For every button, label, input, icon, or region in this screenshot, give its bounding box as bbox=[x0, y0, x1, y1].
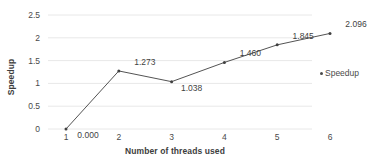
x-axis-title: Number of threads used bbox=[85, 146, 265, 156]
speedup-line-chart: Speedup Number of threads used 00.511.52… bbox=[0, 0, 370, 166]
y-tick-label: 2.5 bbox=[14, 10, 40, 20]
data-point-marker bbox=[223, 61, 226, 64]
data-point-marker bbox=[329, 32, 332, 35]
data-label: 2.096 bbox=[336, 19, 370, 29]
x-tick-label: 2 bbox=[109, 132, 129, 142]
x-tick-label: 4 bbox=[214, 132, 234, 142]
x-tick-label: 3 bbox=[162, 132, 182, 142]
legend-label-speedup: Speedup bbox=[325, 68, 359, 78]
x-tick-label: 5 bbox=[267, 132, 287, 142]
y-tick-label: 0.5 bbox=[14, 101, 40, 111]
y-tick-label: 2 bbox=[14, 33, 40, 43]
x-tick-label: 6 bbox=[320, 132, 340, 142]
data-label: 0.000 bbox=[68, 130, 108, 140]
data-label: 1.460 bbox=[230, 48, 270, 58]
data-point-marker bbox=[276, 43, 279, 46]
y-tick-label: 1.5 bbox=[14, 56, 40, 66]
data-label: 1.038 bbox=[172, 83, 212, 93]
y-tick-label: 1 bbox=[14, 78, 40, 88]
chart-legend: Speedup bbox=[320, 68, 359, 78]
data-label: 1.845 bbox=[283, 31, 323, 41]
data-point-marker bbox=[117, 69, 120, 72]
data-label: 1.273 bbox=[125, 57, 165, 67]
dot-marker-icon bbox=[320, 72, 323, 75]
y-tick-label: 0 bbox=[14, 124, 40, 134]
